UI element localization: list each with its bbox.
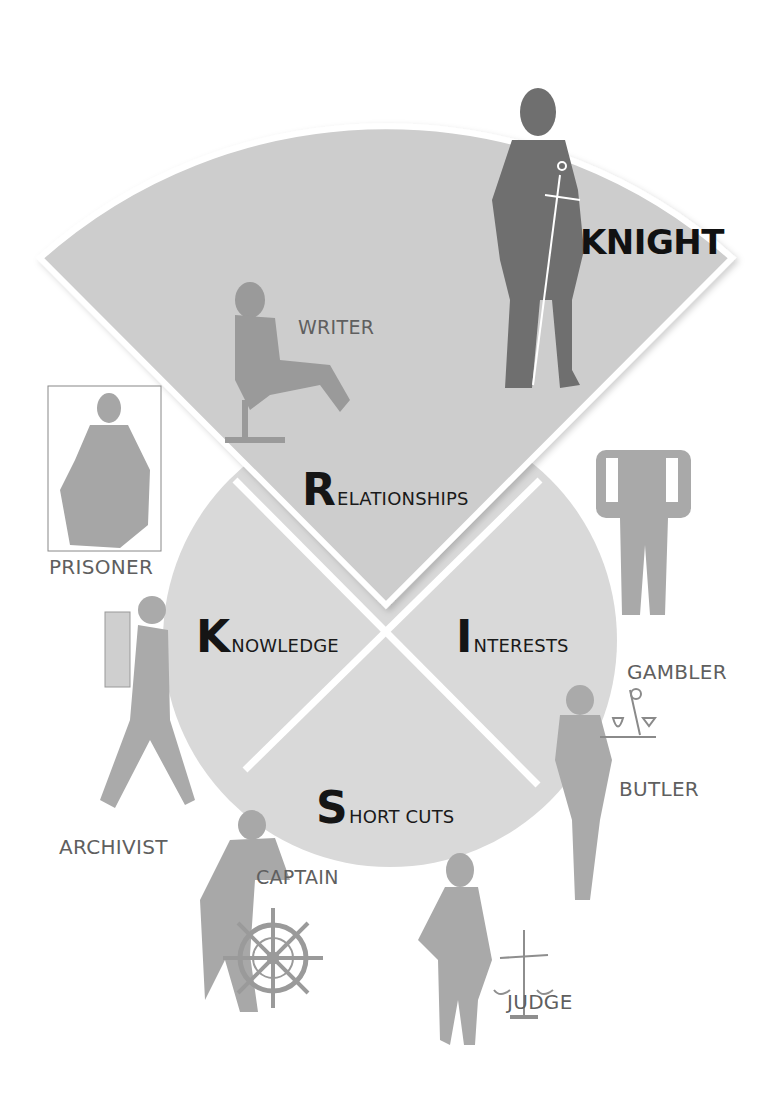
segment-knowledge: KNOWLEDGE <box>196 611 339 662</box>
infographic: KNIGHT WRITER PRISONER GAMBLER ARCHIVIST… <box>0 0 781 1104</box>
segment-interests: INTERESTS <box>456 611 569 662</box>
prisoner-frame <box>48 386 161 551</box>
knight-label: KNIGHT <box>580 222 724 262</box>
segment-initial: R <box>302 464 336 515</box>
archivist-label: ARCHIVIST <box>59 835 168 859</box>
captain-label: CAPTAIN <box>256 866 339 888</box>
judge-label: JUDGE <box>507 990 573 1014</box>
diagram-graphic <box>0 0 781 1104</box>
gambler-label: GAMBLER <box>627 660 727 684</box>
captain-figure-icon <box>200 810 290 1012</box>
segment-initial: I <box>456 611 473 662</box>
segment-short-cuts: SHORT CUTS <box>316 782 454 833</box>
segment-relationships: RELATIONSHIPS <box>302 464 469 515</box>
prisoner-label: PRISONER <box>49 555 153 579</box>
segment-rest: NTERESTS <box>474 635 569 656</box>
ships-wheel-icon <box>223 908 323 1008</box>
writer-label: WRITER <box>298 316 374 338</box>
butler-label: BUTLER <box>619 777 699 801</box>
segment-rest: ELATIONSHIPS <box>337 488 469 509</box>
segment-rest: HORT CUTS <box>349 806 455 827</box>
segment-initial: S <box>316 782 348 833</box>
segment-rest: NOWLEDGE <box>231 635 339 656</box>
judge-figure-icon <box>418 853 492 1045</box>
segment-initial: K <box>196 611 230 662</box>
